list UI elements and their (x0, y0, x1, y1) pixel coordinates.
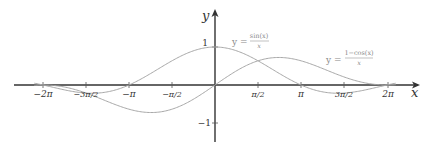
svg-text:x: x (257, 42, 261, 50)
x-tick-label: π (297, 89, 305, 99)
x-tick-label: 3π/2 (335, 90, 353, 99)
x-tick-label: −2π (33, 89, 53, 99)
svg-text:y =: y = (325, 55, 342, 65)
y-tick-label: −1 (198, 118, 211, 128)
svg-text:y =: y = (231, 37, 248, 47)
x-tick-label: −π (122, 89, 137, 99)
svg-text:x: x (357, 59, 361, 67)
plot-canvas: −2π −3π/2 −π −π/2 π/2 π 3π/2 2π 1 −1 x y… (0, 0, 431, 149)
equation-label-cosc: y = 1−cos(x) x (325, 49, 374, 67)
equation-label-sinc: y = sin(x) x (231, 32, 269, 50)
x-tick-label: −π/2 (162, 90, 182, 99)
y-tick-label: 1 (202, 38, 208, 48)
svg-text:sin(x): sin(x) (250, 32, 269, 40)
y-axis-label: y (201, 8, 210, 23)
x-tick-label: −3π/2 (74, 90, 99, 99)
x-tick-label: 2π (381, 89, 395, 99)
svg-text:1−cos(x): 1−cos(x) (344, 49, 374, 57)
x-axis-label: x (411, 85, 419, 100)
x-tick-label: π/2 (250, 90, 264, 99)
